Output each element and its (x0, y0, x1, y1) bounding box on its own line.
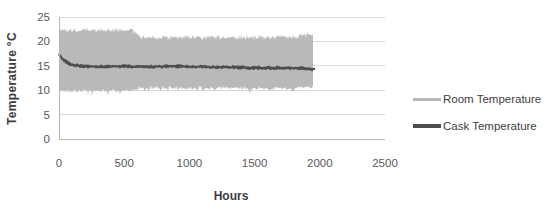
x-tick-label-0: 0 (56, 157, 62, 169)
x-tick-label-1000: 1000 (177, 157, 203, 169)
x-axis-title: Hours (196, 189, 266, 205)
x-tick-label-2000: 2000 (307, 157, 333, 169)
y-axis-title: Temperature °C (5, 14, 20, 144)
x-tick-label-500: 500 (115, 157, 134, 169)
chart-legend: Room Temperature Cask Temperature (413, 92, 553, 146)
x-tick-label-1500: 1500 (242, 157, 268, 169)
cask-temperature-legend-line-icon (413, 124, 441, 128)
y-tick-label-5: 5 (44, 109, 50, 121)
y-tick-label-25: 25 (37, 11, 50, 23)
legend-item-room-temperature: Room Temperature (413, 92, 553, 106)
room-temperature-legend-line-icon (413, 98, 441, 101)
x-tick-label-2500: 2500 (372, 157, 398, 169)
room-temperature-band-series (59, 27, 313, 96)
y-tick-label-15: 15 (37, 60, 50, 72)
y-tick-label-0: 0 (44, 133, 50, 145)
temperature-chart-figure: 051015202505001000150020002500 Temperatu… (0, 0, 553, 212)
legend-label-room-temperature: Room Temperature (443, 93, 541, 105)
y-tick-label-20: 20 (37, 35, 50, 47)
y-tick-label-10: 10 (37, 84, 50, 96)
legend-label-cask-temperature: Cask Temperature (443, 120, 537, 132)
legend-item-cask-temperature: Cask Temperature (413, 119, 553, 133)
